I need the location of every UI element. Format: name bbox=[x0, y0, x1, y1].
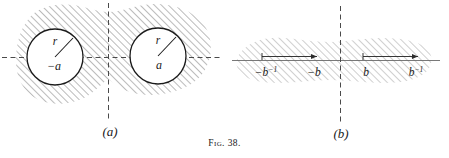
panel-a-label: (a) bbox=[102, 124, 117, 139]
figure-caption: Fig. 38. bbox=[0, 138, 449, 148]
figure-canvas: r −a r a (a) −b− bbox=[0, 0, 449, 158]
right-interval-start-label: b bbox=[363, 66, 369, 78]
figure-38: r −a r a (a) −b− bbox=[0, 0, 449, 158]
right-interval-start-base: b bbox=[363, 66, 369, 78]
right-interval-end-exponent: −1 bbox=[414, 65, 423, 74]
left-interval-end-label: −b bbox=[307, 66, 321, 78]
left-interval-start-base: −b bbox=[255, 66, 269, 78]
panel-b: −b−1 −b b b−1 (b) bbox=[225, 0, 449, 141]
right-circle-center-label: a bbox=[156, 58, 162, 72]
left-circle-radius-label: r bbox=[53, 35, 58, 47]
left-interval-end-base: −b bbox=[307, 66, 321, 78]
right-circle-radius-label: r bbox=[156, 34, 161, 46]
left-circle-center-label: −a bbox=[47, 59, 61, 73]
panel-a: r −a r a (a) bbox=[0, 0, 225, 139]
left-interval-start-exponent: −1 bbox=[268, 65, 277, 74]
